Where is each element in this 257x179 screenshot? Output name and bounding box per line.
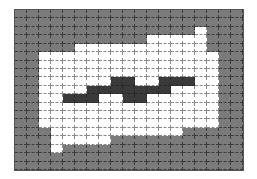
background-cell: [159, 145, 171, 153]
region-cell: [51, 145, 63, 153]
region-cell: [195, 77, 207, 85]
region-cell: [111, 69, 123, 77]
region-cell: [51, 69, 63, 77]
region-cell: [63, 128, 75, 136]
background-cell: [15, 10, 27, 18]
region-cell: [63, 119, 75, 127]
background-cell: [27, 111, 39, 119]
background-cell: [135, 10, 147, 18]
background-cell: [207, 162, 219, 170]
background-cell: [183, 128, 195, 136]
background-cell: [219, 153, 231, 161]
background-cell: [123, 35, 135, 43]
background-cell: [183, 27, 195, 35]
region-cell: [171, 52, 183, 60]
region-cell: [99, 61, 111, 69]
region-cell: [147, 35, 159, 43]
background-cell: [111, 136, 123, 144]
background-cell: [207, 18, 219, 26]
region-cell: [75, 128, 87, 136]
background-cell: [75, 153, 87, 161]
background-cell: [219, 128, 231, 136]
background-cell: [135, 162, 147, 170]
background-cell: [171, 18, 183, 26]
background-cell: [135, 136, 147, 144]
region-cell: [111, 61, 123, 69]
background-cell: [147, 136, 159, 144]
region-cell: [87, 52, 99, 60]
region-cell: [111, 111, 123, 119]
background-cell: [207, 27, 219, 35]
background-cell: [63, 10, 75, 18]
region-cell: [51, 103, 63, 111]
region-cell: [123, 52, 135, 60]
region-cell: [159, 69, 171, 77]
region-cell: [75, 111, 87, 119]
band-cell: [99, 86, 111, 94]
pixel-grid: [14, 9, 244, 171]
region-cell: [135, 111, 147, 119]
region-cell: [171, 69, 183, 77]
region-cell: [195, 69, 207, 77]
background-cell: [39, 35, 51, 43]
background-cell: [99, 162, 111, 170]
background-cell: [195, 128, 207, 136]
background-cell: [147, 18, 159, 26]
background-cell: [15, 162, 27, 170]
background-cell: [15, 27, 27, 35]
background-cell: [123, 162, 135, 170]
region-cell: [99, 119, 111, 127]
region-cell: [63, 136, 75, 144]
region-cell: [135, 69, 147, 77]
region-cell: [39, 61, 51, 69]
background-cell: [147, 27, 159, 35]
background-cell: [231, 153, 243, 161]
region-cell: [39, 103, 51, 111]
region-cell: [207, 103, 219, 111]
background-cell: [75, 35, 87, 43]
background-cell: [231, 69, 243, 77]
background-cell: [219, 69, 231, 77]
background-cell: [63, 18, 75, 26]
background-cell: [27, 35, 39, 43]
background-cell: [159, 18, 171, 26]
background-cell: [99, 10, 111, 18]
background-cell: [183, 136, 195, 144]
background-cell: [231, 111, 243, 119]
band-cell: [135, 94, 147, 102]
region-cell: [51, 111, 63, 119]
background-cell: [219, 35, 231, 43]
region-cell: [159, 35, 171, 43]
region-cell: [171, 128, 183, 136]
background-cell: [231, 77, 243, 85]
background-cell: [87, 145, 99, 153]
region-cell: [123, 119, 135, 127]
background-cell: [231, 136, 243, 144]
band-cell: [87, 94, 99, 102]
background-cell: [231, 94, 243, 102]
region-cell: [111, 128, 123, 136]
region-cell: [63, 111, 75, 119]
region-cell: [171, 94, 183, 102]
background-cell: [207, 153, 219, 161]
background-cell: [99, 153, 111, 161]
region-cell: [195, 61, 207, 69]
region-cell: [75, 61, 87, 69]
background-cell: [135, 35, 147, 43]
background-cell: [219, 94, 231, 102]
region-cell: [111, 119, 123, 127]
background-cell: [219, 119, 231, 127]
background-cell: [159, 162, 171, 170]
background-cell: [63, 35, 75, 43]
background-cell: [111, 10, 123, 18]
background-cell: [63, 27, 75, 35]
region-cell: [51, 94, 63, 102]
region-cell: [39, 86, 51, 94]
background-cell: [231, 52, 243, 60]
background-cell: [15, 128, 27, 136]
region-cell: [99, 69, 111, 77]
region-cell: [147, 128, 159, 136]
region-cell: [123, 111, 135, 119]
region-cell: [183, 86, 195, 94]
region-cell: [39, 69, 51, 77]
